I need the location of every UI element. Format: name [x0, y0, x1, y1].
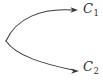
label-c2-subscript: 2 [93, 66, 98, 76]
label-c1: C1 [83, 2, 98, 15]
branching-curve-figure: C1 C2 [0, 0, 103, 80]
label-c2: C2 [83, 60, 98, 73]
curve-to-c1 [6, 10, 72, 41]
arrowhead-c2-icon [71, 69, 79, 74]
label-c2-base: C [83, 59, 93, 74]
label-c1-subscript: 1 [93, 8, 98, 18]
curve-to-c2 [6, 41, 73, 70]
label-c1-base: C [83, 1, 93, 16]
